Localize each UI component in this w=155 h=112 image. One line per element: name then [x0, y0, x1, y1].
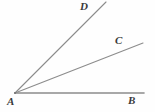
vertex-label-b: B	[128, 95, 135, 106]
vertex-label-d: D	[80, 1, 88, 12]
vertex-label-c: C	[115, 35, 122, 46]
vertex-point-a	[14, 92, 16, 94]
ray-ac-line	[15, 43, 143, 93]
vertex-label-a: A	[7, 96, 14, 107]
ray-ad-line	[15, 2, 106, 93]
geometry-figure-canvas: A B C D	[0, 0, 155, 112]
